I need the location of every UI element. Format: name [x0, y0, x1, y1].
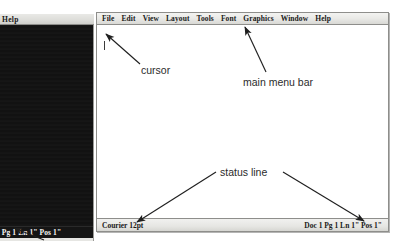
background-window-body[interactable] — [0, 25, 93, 226]
menu-item-edit[interactable]: Edit — [121, 13, 135, 24]
text-cursor — [104, 41, 105, 50]
background-window-titlebar[interactable]: Help — [0, 14, 94, 25]
status-line: Courier 12pt Doc 1 Pg 1 Ln 1" Pos 1" — [97, 218, 388, 231]
status-font-indicator: Courier 12pt — [102, 220, 143, 231]
menu-item-layout[interactable]: Layout — [166, 13, 190, 24]
menu-item-font[interactable]: Font — [221, 13, 236, 24]
background-window-statusbar: 1 Pg 1 Ln 1" Pos 1" — [0, 226, 93, 238]
menu-item-view[interactable]: View — [143, 13, 159, 24]
menu-item-tools[interactable]: Tools — [197, 13, 214, 24]
document-editing-area[interactable] — [97, 25, 388, 217]
screenshot-root: Help 1 Pg 1 Ln 1" Pos 1" FileEditViewLay… — [0, 0, 405, 241]
background-window[interactable]: Help 1 Pg 1 Ln 1" Pos 1" — [0, 14, 94, 241]
main-menu-bar[interactable]: FileEditViewLayoutToolsFontGraphicsWindo… — [97, 13, 388, 25]
menu-item-window[interactable]: Window — [281, 13, 309, 24]
background-window-title: Help — [2, 14, 19, 25]
main-application-window[interactable]: FileEditViewLayoutToolsFontGraphicsWindo… — [96, 12, 389, 232]
menu-item-file[interactable]: File — [102, 13, 114, 24]
menu-item-help[interactable]: Help — [315, 13, 331, 24]
menu-item-graphics[interactable]: Graphics — [243, 13, 273, 24]
status-position-indicator: Doc 1 Pg 1 Ln 1" Pos 1" — [304, 220, 382, 231]
